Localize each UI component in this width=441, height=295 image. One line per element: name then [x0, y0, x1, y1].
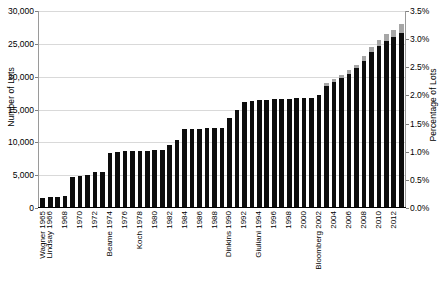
bar-segment-primary: [108, 153, 113, 208]
bar[interactable]: [55, 197, 60, 207]
bar[interactable]: [264, 100, 269, 207]
bar[interactable]: [339, 75, 344, 207]
bar-slot: [330, 11, 337, 207]
y-tick-mark-right: [406, 11, 409, 12]
bar[interactable]: [100, 172, 105, 207]
bar-slot: [181, 11, 188, 207]
bar[interactable]: [242, 102, 247, 207]
bar-segment-primary: [212, 128, 217, 207]
bar-segment-primary: [227, 118, 232, 207]
bar-slot: [278, 11, 285, 207]
bar-slot: [99, 11, 106, 207]
bar-segment-primary: [220, 128, 225, 207]
bar[interactable]: [369, 47, 374, 207]
bar-slot: [69, 11, 76, 207]
bar[interactable]: [145, 151, 150, 207]
bar-slot: [188, 11, 195, 207]
bar[interactable]: [182, 129, 187, 207]
bar[interactable]: [63, 196, 68, 207]
bar[interactable]: [227, 118, 232, 207]
bar-segment-primary: [152, 150, 157, 207]
bar[interactable]: [152, 150, 157, 207]
x-tick-slot: 1992: [241, 210, 248, 295]
bar[interactable]: [205, 128, 210, 207]
bar[interactable]: [354, 65, 359, 207]
x-tick-slot: 1988: [211, 210, 218, 295]
bar-slot: [159, 11, 166, 207]
x-tick-slot: Koch 1978: [136, 210, 143, 295]
bar[interactable]: [130, 151, 135, 207]
bar[interactable]: [70, 177, 75, 207]
bar-slot: [360, 11, 367, 207]
bar[interactable]: [287, 99, 292, 207]
y-tick-mark-right: [406, 95, 409, 96]
y-tick-label-right: 3.5%: [410, 7, 429, 16]
y-tick-label-left: 5,000: [13, 171, 34, 180]
bar-segment-primary: [294, 98, 299, 207]
bar[interactable]: [108, 153, 113, 208]
bar[interactable]: [399, 24, 404, 207]
bar-segment-primary: [324, 86, 329, 207]
x-tick-slot: Bloomberg 2002: [315, 210, 322, 295]
bar-slot: [368, 11, 375, 207]
chart-container: Number of Lots Percentage of Lots 30,000…: [0, 0, 441, 295]
bar[interactable]: [347, 70, 352, 207]
bar[interactable]: [317, 95, 322, 207]
bar-segment-secondary: [391, 30, 396, 37]
x-tick-slot: 2008: [360, 210, 367, 295]
bar[interactable]: [235, 110, 240, 207]
x-tick-slot: Dinkins 1990: [226, 210, 233, 295]
bar-slot: [173, 11, 180, 207]
bar-slot: [256, 11, 263, 207]
bar[interactable]: [212, 128, 217, 207]
bar[interactable]: [294, 98, 299, 207]
bar[interactable]: [78, 176, 83, 207]
bar-slot: [383, 11, 390, 207]
bar[interactable]: [175, 140, 180, 207]
bar-segment-primary: [70, 177, 75, 207]
x-tick-slot: 1968: [61, 210, 68, 295]
bar[interactable]: [272, 99, 277, 207]
bar-segment-primary: [93, 172, 98, 207]
bar-slot: [338, 11, 345, 207]
bar[interactable]: [167, 145, 172, 207]
y-axis-right-line: [405, 11, 406, 208]
bar-segment-primary: [115, 152, 120, 207]
bar[interactable]: [48, 197, 53, 207]
bar-segment-primary: [339, 78, 344, 207]
bar-segment-primary: [242, 102, 247, 207]
bar[interactable]: [391, 30, 396, 207]
bar[interactable]: [190, 129, 195, 207]
bar[interactable]: [220, 128, 225, 207]
bar[interactable]: [279, 99, 284, 207]
bar[interactable]: [93, 172, 98, 207]
bar[interactable]: [160, 150, 165, 207]
bar-segment-primary: [391, 37, 396, 207]
x-tick-slot: 2000: [300, 210, 307, 295]
bar[interactable]: [85, 175, 90, 207]
bar[interactable]: [384, 34, 389, 207]
x-tick-slot: 2010: [375, 210, 382, 295]
bar[interactable]: [324, 83, 329, 207]
bar-segment-primary: [287, 99, 292, 207]
bar-segment-primary: [167, 145, 172, 207]
bar[interactable]: [302, 98, 307, 207]
bar[interactable]: [250, 101, 255, 207]
bar[interactable]: [309, 98, 314, 207]
bar-slot: [54, 11, 61, 207]
bar-slot: [241, 11, 248, 207]
bar[interactable]: [115, 152, 120, 207]
bar[interactable]: [138, 151, 143, 207]
x-tick-slot: 1980: [151, 210, 158, 295]
bar-segment-primary: [138, 151, 143, 207]
bar[interactable]: [257, 100, 262, 207]
bar[interactable]: [123, 151, 128, 207]
x-tick-slot: 2006: [345, 210, 352, 295]
bar[interactable]: [40, 198, 45, 207]
bar[interactable]: [362, 56, 367, 207]
bar[interactable]: [332, 79, 337, 207]
bar-slot: [196, 11, 203, 207]
bar-slot: [39, 11, 46, 207]
bar[interactable]: [197, 129, 202, 207]
bar[interactable]: [377, 40, 382, 207]
